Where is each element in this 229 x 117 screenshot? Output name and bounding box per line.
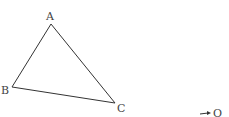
point-label-o: O <box>213 107 222 117</box>
triangle-abc <box>12 24 115 103</box>
vertex-label-c: C <box>117 102 125 115</box>
vertex-label-a: A <box>45 10 55 23</box>
triangle-diagram: A B C O <box>0 0 229 117</box>
arrowhead-icon <box>207 111 211 115</box>
vertex-label-b: B <box>1 84 9 97</box>
arrow-to-o <box>200 113 208 114</box>
